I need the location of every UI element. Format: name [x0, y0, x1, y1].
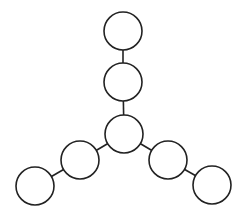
node-right-mid — [149, 141, 187, 179]
node-left-end — [16, 167, 54, 205]
node-center — [105, 115, 143, 153]
node-right-end — [193, 166, 231, 204]
node-top — [104, 12, 142, 50]
star-graph-diagram — [0, 0, 246, 214]
node-left-mid — [61, 141, 99, 179]
node-upper — [104, 63, 142, 101]
